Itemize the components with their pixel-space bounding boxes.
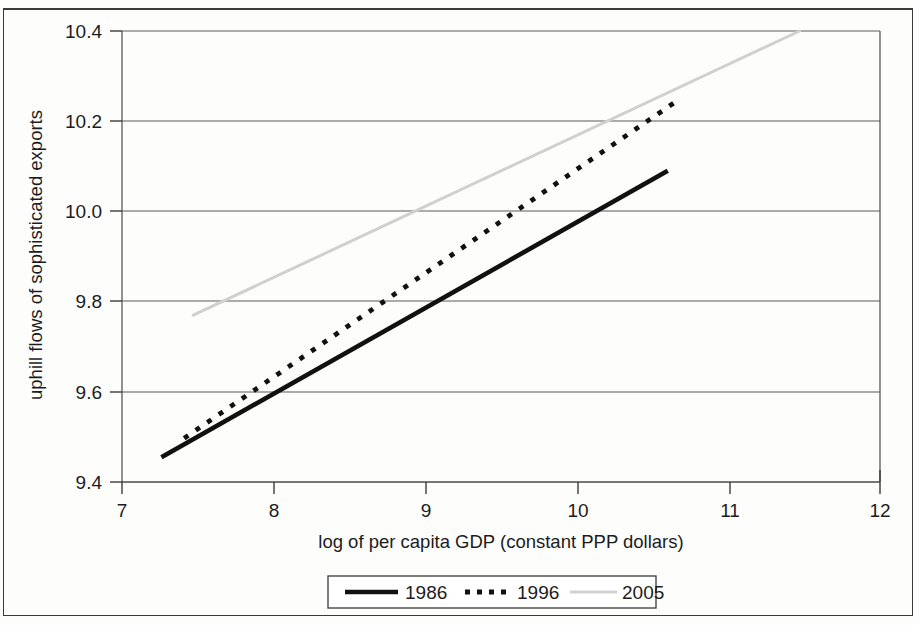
y-tick-label: 9.8 <box>76 291 102 312</box>
line-chart: 10.4 10.2 10.0 9.8 9.6 9.4 7 8 9 10 11 1… <box>0 0 919 625</box>
y-axis-ticks <box>110 31 122 482</box>
x-tick-label: 11 <box>720 500 740 521</box>
x-tick-labels: 7 8 9 10 11 12 <box>117 500 891 521</box>
legend-label-1986: 1986 <box>405 582 447 603</box>
gridlines <box>122 31 880 392</box>
legend-label-2005: 2005 <box>622 582 664 603</box>
x-tick-label: 12 <box>869 500 890 521</box>
data-series <box>161 31 799 457</box>
series-line-2005 <box>193 31 799 315</box>
x-tick-label: 8 <box>269 500 280 521</box>
x-tick-label: 9 <box>421 500 432 521</box>
legend: 1986 1996 2005 <box>328 576 664 608</box>
figure-page: 10.4 10.2 10.0 9.8 9.6 9.4 7 8 9 10 11 1… <box>0 0 919 625</box>
x-tick-label: 7 <box>117 500 128 521</box>
y-tick-labels: 10.4 10.2 10.0 9.8 9.6 9.4 <box>65 21 102 493</box>
y-tick-label: 10.4 <box>65 21 102 42</box>
legend-label-1996: 1996 <box>517 582 559 603</box>
y-tick-label: 10.2 <box>65 111 102 132</box>
series-line-1986 <box>161 171 667 457</box>
y-tick-label: 10.0 <box>65 201 102 222</box>
y-tick-label: 9.6 <box>76 382 102 403</box>
chart-figure: 10.4 10.2 10.0 9.8 9.6 9.4 7 8 9 10 11 1… <box>0 0 919 625</box>
x-tick-label: 10 <box>567 500 588 521</box>
y-tick-label: 9.4 <box>76 472 103 493</box>
y-axis-title: uphill flows of sophisticated exports <box>25 110 46 400</box>
x-axis-title: log of per capita GDP (constant PPP doll… <box>318 531 683 552</box>
series-line-1996 <box>184 101 677 438</box>
